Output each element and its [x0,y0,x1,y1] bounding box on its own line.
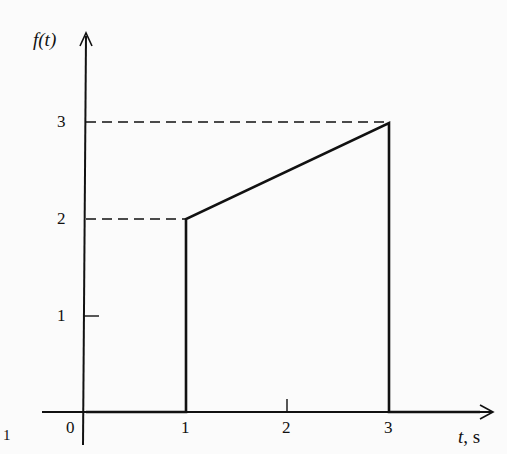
y-tick-label-3: 3 [57,113,66,130]
x-tick-label-2: 2 [282,419,291,436]
x-axis-label: t, s [458,427,480,446]
chart-plot [0,0,507,454]
y-tick-label-2: 2 [57,210,66,227]
x-tick-label-1: 1 [181,419,190,436]
series-f-t [86,123,480,412]
x-tick-label-3: 3 [384,419,393,436]
origin-label: 0 [66,419,75,436]
stray-mark: 1 [3,428,11,443]
y-axis-label: f(t) [33,30,56,49]
y-axis [83,36,86,445]
y-tick-label-1: 1 [57,307,66,324]
